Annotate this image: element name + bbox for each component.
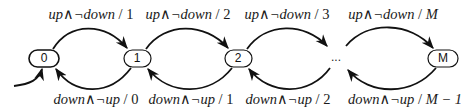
guard-not-up: ¬up [390, 91, 414, 107]
edge-2-to-1 [148, 68, 232, 89]
separator: / [212, 6, 223, 22]
label-edge-2-to-ellipsis: up∧¬down / 3 [245, 6, 330, 23]
op-and: ∧ [259, 6, 270, 22]
ellipsis: ... [331, 50, 341, 64]
initial-arrow [14, 69, 42, 86]
guard-not-up: ¬up [288, 91, 312, 107]
guard-not-down: ¬down [373, 6, 414, 22]
separator: / [120, 91, 131, 107]
edge-1-to-2 [146, 29, 228, 49]
output-value: 2 [323, 91, 330, 107]
output-value: 2 [223, 6, 230, 22]
separator: / [215, 91, 226, 107]
state-label-1: 1 [134, 51, 141, 65]
op-and: ∧ [363, 6, 374, 22]
guard-down: down [246, 91, 277, 107]
edge-2-to-ellipsis [247, 28, 327, 49]
guard-not-down: ¬down [270, 6, 311, 22]
edge-ellipsis-to-2 [249, 68, 330, 89]
state-label-2: 2 [235, 51, 242, 65]
op-and: ∧ [160, 6, 171, 22]
edge-M-to-ellipsis [348, 68, 436, 89]
op-and: ∧ [277, 91, 288, 107]
op-and: ∧ [180, 91, 191, 107]
guard-not-down: ¬down [74, 6, 115, 22]
op-and: ∧ [379, 91, 390, 107]
output-value: 0 [131, 91, 138, 107]
separator: / [115, 6, 126, 22]
edge-ellipsis-to-M [346, 27, 433, 48]
state-label-M: M [438, 51, 448, 65]
output-value: 3 [322, 6, 329, 22]
separator: / [414, 6, 425, 22]
state-label-0: 0 [41, 51, 48, 65]
label-edge-ellipsis-to-2: down∧¬up / 2 [246, 91, 331, 108]
label-edge-1-to-0: down∧¬up / 0 [54, 91, 139, 108]
output-value: M [426, 6, 438, 22]
guard-up: up [245, 6, 260, 22]
guard-up: up [146, 6, 161, 22]
output-value: 1 [126, 6, 133, 22]
guard-up: up [49, 6, 64, 22]
guard-not-down: ¬down [171, 6, 212, 22]
label-edge-1-to-2: up∧¬down / 2 [146, 6, 231, 23]
output-value: M − 1 [426, 91, 462, 107]
separator: / [414, 91, 425, 107]
guard-down: down [54, 91, 85, 107]
guard-down: down [348, 91, 379, 107]
separator: / [311, 6, 322, 22]
label-edge-M-to-ellipsis: down∧¬up / M − 1 [348, 91, 462, 108]
guard-down: down [149, 91, 180, 107]
state-diagram: 0 1 2 M ... up∧¬down / 1 up∧¬down / 2 up… [0, 0, 471, 111]
guard-not-up: ¬up [191, 91, 215, 107]
guard-not-up: ¬up [96, 91, 120, 107]
edge-0-to-1 [53, 29, 127, 49]
op-and: ∧ [63, 6, 74, 22]
label-edge-ellipsis-to-M: up∧¬down / M [348, 6, 438, 23]
guard-up: up [348, 6, 363, 22]
label-edge-0-to-1: up∧¬down / 1 [49, 6, 134, 23]
op-and: ∧ [85, 91, 96, 107]
separator: / [312, 91, 323, 107]
edge-1-to-0 [56, 68, 131, 89]
output-value: 1 [226, 91, 233, 107]
label-edge-2-to-1: down∧¬up / 1 [149, 91, 234, 108]
